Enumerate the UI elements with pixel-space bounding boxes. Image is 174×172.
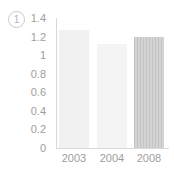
x-axis-line — [56, 148, 169, 149]
bar-chart: 1 1.4 1.2 1 0.8 0.6 0.4 0.2 0 2003 2004 … — [0, 0, 174, 172]
plot-area — [57, 18, 169, 148]
x-axis-tick-labels: 2003 2004 2008 — [57, 152, 169, 170]
y-axis-tick-label: 1.2 — [0, 31, 46, 43]
y-axis-tick-label: 1 — [0, 49, 46, 61]
bar-2003 — [59, 30, 89, 148]
bar-2004 — [97, 44, 127, 148]
x-axis-tick-label: 2008 — [127, 152, 171, 164]
y-axis-tick-label: 0.4 — [0, 105, 46, 117]
y-axis-tick-label: 1.4 — [0, 12, 46, 24]
y-axis-tick-label: 0.6 — [0, 86, 46, 98]
y-axis-tick-labels: 1.4 1.2 1 0.8 0.6 0.4 0.2 0 — [0, 0, 52, 172]
y-axis-tick-label: 0.2 — [0, 123, 46, 135]
y-axis-tick-label: 0.8 — [0, 68, 46, 80]
bar-2008 — [134, 37, 164, 148]
y-axis-tick-label: 0 — [0, 142, 46, 154]
